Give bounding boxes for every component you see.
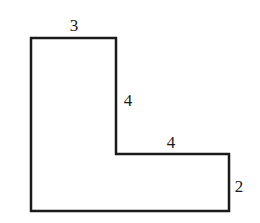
label-inner-vertical: 4 — [124, 91, 133, 110]
label-top-width: 3 — [70, 16, 79, 35]
label-right-height: 2 — [235, 177, 244, 196]
label-inner-horizontal: 4 — [167, 133, 176, 152]
l-shape-outline — [31, 38, 229, 211]
l-shape-diagram: 3 4 4 2 — [0, 0, 260, 223]
